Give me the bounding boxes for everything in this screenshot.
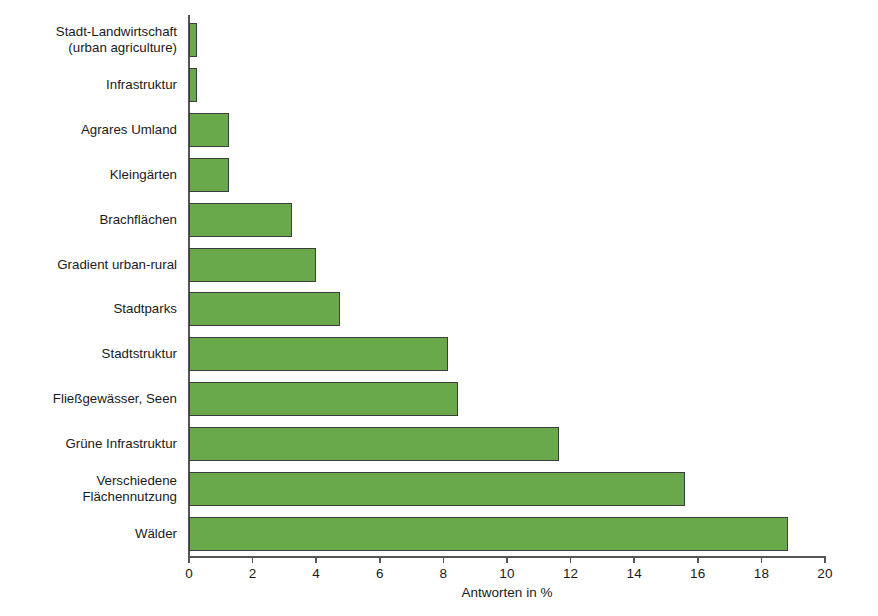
bar: [189, 158, 229, 192]
category-label: Brachflächen: [0, 212, 189, 228]
bar-row: [189, 337, 825, 371]
x-tick-label-8: 8: [440, 566, 448, 581]
category-label: Stadtparks: [0, 301, 189, 317]
category-label: Agrares Umland: [0, 122, 189, 138]
bar-row: [189, 23, 825, 57]
bar-row: [189, 203, 825, 237]
category-label: Wälder: [0, 526, 189, 542]
x-tick-label-18: 18: [754, 566, 769, 581]
category-label: Infrastruktur: [0, 77, 189, 93]
category-label: Grüne Infrastruktur: [0, 436, 189, 452]
bar: [189, 248, 316, 282]
bar-row: [189, 292, 825, 326]
x-tick-10: [506, 556, 508, 563]
x-tick-12: [570, 556, 572, 563]
bar-row: [189, 382, 825, 416]
x-tick-8: [443, 556, 445, 563]
bar-chart: 02468101214161820 Stadt-Landwirtschaft (…: [0, 0, 878, 616]
bar: [189, 517, 788, 551]
bar: [189, 113, 229, 147]
bar: [189, 23, 197, 57]
category-label: Gradient urban-rural: [0, 257, 189, 273]
x-tick-label-10: 10: [499, 566, 514, 581]
bar: [189, 427, 559, 461]
category-label: Fließgewässer, Seen: [0, 391, 189, 407]
x-tick-18: [761, 556, 763, 563]
bar: [189, 68, 197, 102]
category-label: Stadt-Landwirtschaft (urban agriculture): [0, 24, 189, 56]
x-tick-16: [697, 556, 699, 563]
x-tick-label-2: 2: [249, 566, 257, 581]
x-tick-14: [633, 556, 635, 563]
bar: [189, 292, 340, 326]
x-tick-label-4: 4: [312, 566, 320, 581]
category-label: Stadtstruktur: [0, 346, 189, 362]
bar-row: [189, 158, 825, 192]
x-tick-label-0: 0: [185, 566, 193, 581]
x-tick-4: [315, 556, 317, 563]
x-tick-label-6: 6: [376, 566, 384, 581]
x-tick-2: [252, 556, 254, 563]
bar: [189, 472, 685, 506]
x-axis-title: Antworten in %: [189, 585, 825, 600]
category-label: Verschiedene Flächennutzung: [0, 473, 189, 505]
bar: [189, 337, 448, 371]
x-tick-label-20: 20: [817, 566, 832, 581]
bar-row: [189, 427, 825, 461]
bar: [189, 203, 292, 237]
x-tick-label-16: 16: [690, 566, 705, 581]
bar-row: [189, 113, 825, 147]
bar-row: [189, 248, 825, 282]
x-tick-0: [188, 556, 190, 563]
x-tick-20: [824, 556, 826, 563]
bar-row: [189, 68, 825, 102]
bar: [189, 382, 458, 416]
bar-row: [189, 472, 825, 506]
x-tick-label-12: 12: [563, 566, 578, 581]
bar-row: [189, 517, 825, 551]
category-label: Kleingärten: [0, 167, 189, 183]
x-tick-label-14: 14: [626, 566, 641, 581]
x-tick-6: [379, 556, 381, 563]
